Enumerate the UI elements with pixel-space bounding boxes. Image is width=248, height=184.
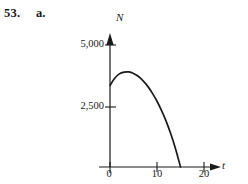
figure-container: 53. a. N t 5,000 2,500 0 10 20 (0, 0, 248, 184)
plot-area (0, 0, 248, 184)
y-tick-label-2500: 2,500 (56, 100, 104, 111)
population-curve (110, 72, 181, 167)
x-tick-label-0: 0 (100, 168, 118, 179)
x-tick-label-20: 20 (193, 168, 215, 179)
y-axis-label: N (116, 11, 123, 23)
x-axis-label: t (222, 159, 225, 171)
y-axis-arrowhead (106, 33, 113, 45)
x-tick-label-10: 10 (146, 168, 168, 179)
y-tick-label-5000: 5,000 (56, 38, 104, 49)
